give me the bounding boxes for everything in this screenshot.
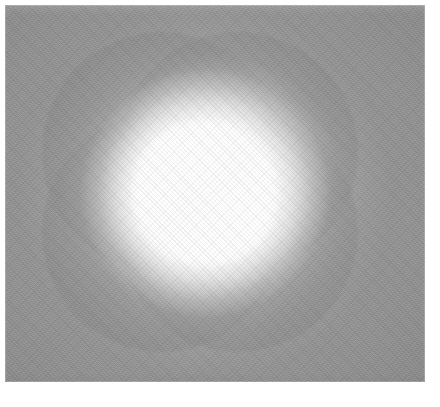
grayscale-image-field [5, 5, 425, 382]
disc-bottom-right [118, 112, 358, 352]
image-canvas [0, 0, 440, 407]
overlapping-disc-group [5, 5, 425, 382]
